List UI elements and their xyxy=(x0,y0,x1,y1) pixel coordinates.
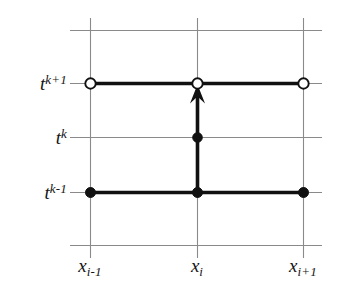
node-open-xi-tkp1 xyxy=(192,78,202,88)
y-axis-label-t-k-minus-1-exponent: k-1 xyxy=(50,181,67,196)
node-filled-xip1-tkm1 xyxy=(299,188,309,198)
stencil-figure: tk+1 tk tk-1 xi-1 xi xi+1 xyxy=(0,0,339,290)
y-axis-label-t-k-plus-1: tk+1 xyxy=(40,73,67,93)
node-open-xim1-tkp1 xyxy=(85,78,95,88)
x-axis-label-x-i: xi xyxy=(191,256,203,278)
node-open-xip1-tkp1 xyxy=(298,78,308,88)
x-axis-label-x-i-subscript: i xyxy=(199,264,203,279)
x-axis-label-x-i-minus-1-subscript: i-1 xyxy=(87,264,102,279)
x-axis-label-x-i-plus-1-subscript: i+1 xyxy=(297,264,316,279)
node-filled-xi-tk xyxy=(193,133,203,143)
y-axis-label-t-k: tk xyxy=(56,127,67,147)
node-filled-xim1-tkm1 xyxy=(86,188,96,198)
x-axis-label-x-i-minus-1: xi-1 xyxy=(78,256,101,278)
stencil-diagram-canvas xyxy=(0,0,339,290)
x-axis-label-x-i-plus-1: xi+1 xyxy=(289,256,317,278)
y-axis-label-t-k-minus-1: tk-1 xyxy=(45,182,67,202)
y-axis-label-t-k-plus-1-exponent: k+1 xyxy=(45,72,67,87)
node-filled-xi-tkm1 xyxy=(193,188,203,198)
y-axis-label-t-k-exponent: k xyxy=(61,126,67,141)
